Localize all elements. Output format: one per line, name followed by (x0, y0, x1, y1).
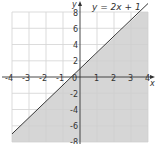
y-axis-arrow-icon (78, 1, 82, 6)
svg-text:6: 6 (73, 25, 78, 34)
svg-text:2: 2 (73, 57, 78, 66)
svg-text:4: 4 (73, 41, 78, 50)
svg-text:2: 2 (111, 74, 116, 83)
svg-text:0: 0 (72, 74, 77, 83)
equation-label: y = 2x + 1 (91, 2, 141, 12)
svg-text:1: 1 (94, 74, 99, 83)
svg-text:-6: -6 (70, 122, 78, 131)
svg-text:3: 3 (128, 74, 133, 83)
svg-text:-2: -2 (39, 74, 47, 83)
svg-text:-4: -4 (5, 74, 13, 83)
y-axis-label: y (71, 0, 77, 9)
svg-text:-8: -8 (70, 138, 78, 144)
inequality-graph: y = 2x + 1 y x -4 -3 -2 -1 0 1 2 3 4 8 6… (0, 0, 160, 144)
svg-text:4: 4 (145, 74, 150, 83)
svg-text:-3: -3 (22, 74, 30, 83)
svg-text:-4: -4 (70, 106, 78, 115)
svg-text:8: 8 (73, 9, 78, 18)
svg-text:-1: -1 (56, 74, 64, 83)
svg-text:-2: -2 (70, 90, 78, 99)
